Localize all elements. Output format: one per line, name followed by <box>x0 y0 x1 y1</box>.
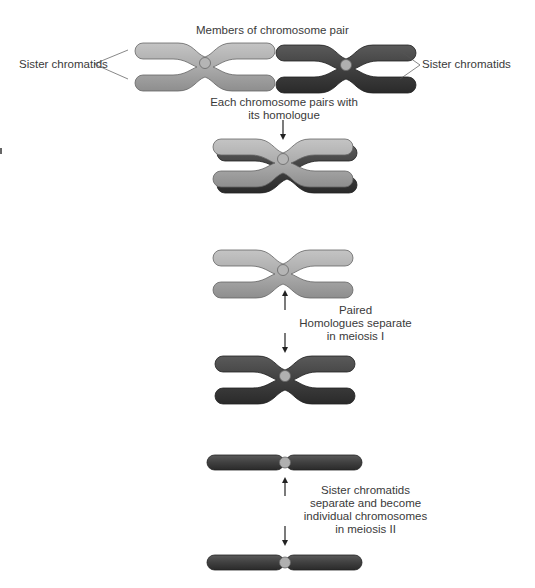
arrow-down-meiosis2 <box>282 526 288 546</box>
meiosis-diagram <box>0 0 535 588</box>
label-pairs-homologue: Each chromosome pairs with its homologue <box>209 96 359 122</box>
arrow-down-meiosis1 <box>282 333 288 353</box>
paired-homologues <box>213 139 357 193</box>
arrow-down-1 <box>280 120 286 140</box>
edge-mark <box>0 148 2 154</box>
label-sister-chromatids-left: Sister chromatids <box>19 58 108 71</box>
light-chromosome-top <box>135 43 275 91</box>
label-line: in meiosis I <box>298 330 413 343</box>
label-sister-chromatids-right: Sister chromatids <box>422 58 511 71</box>
label-line: Sister chromatids <box>303 484 428 497</box>
light-chromosome-meiosis1 <box>213 250 353 298</box>
label-line: its homologue <box>209 109 359 122</box>
dark-chromosome-top <box>276 45 416 93</box>
dark-chromosome-meiosis1 <box>215 356 355 404</box>
label-line: individual chromosomes <box>303 510 428 523</box>
arrow-up-meiosis1 <box>282 290 288 310</box>
chromatid-meiosis2-top <box>207 455 362 470</box>
label-line: in meiosis II <box>303 523 428 536</box>
arrow-up-meiosis2 <box>282 477 288 496</box>
chromatid-meiosis2-bottom <box>207 555 362 570</box>
label-line: separate and become <box>303 497 428 510</box>
label-meiosis2: Sister chromatids separate and become in… <box>303 484 428 536</box>
label-meiosis1: Paired Homologues separate in meiosis I <box>298 304 413 343</box>
label-members-pair: Members of chromosome pair <box>196 24 349 37</box>
label-line: Paired <box>298 304 413 317</box>
label-line: Each chromosome pairs with <box>209 96 359 109</box>
label-line: Homologues separate <box>298 317 413 330</box>
